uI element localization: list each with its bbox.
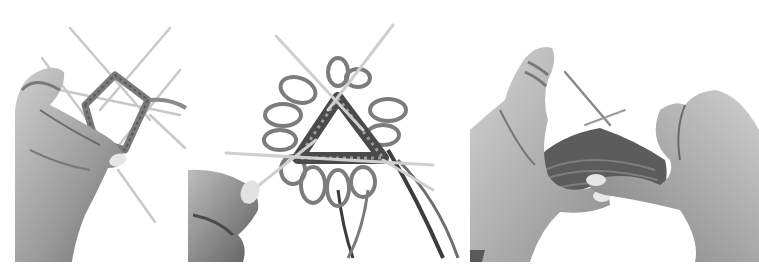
two-hands-knitting-tube-illustration: [470, 0, 759, 262]
photo-panel-loop-flower: [188, 0, 470, 262]
hand-with-square-needles-illustration: [0, 0, 190, 262]
loopy-knit-triangle-illustration: [188, 0, 470, 262]
photo-panel-two-hands-tube: [470, 0, 759, 262]
photo-panel-square-dpn: [0, 0, 190, 262]
